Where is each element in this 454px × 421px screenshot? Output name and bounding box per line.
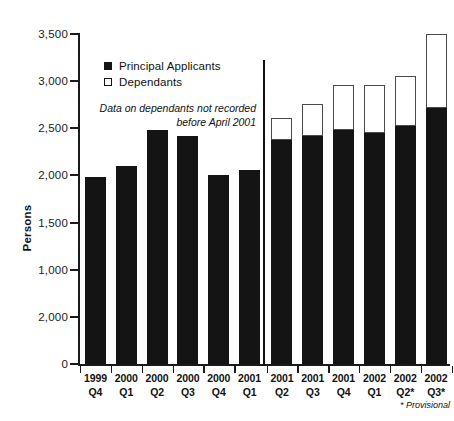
bar [271,118,292,364]
x-axis-label-quarter: Q4 [328,386,359,400]
x-axis-label-year: 2001 [297,372,328,386]
dependants-annotation: Data on dependants not recorded before A… [96,101,256,129]
bar [333,85,354,364]
x-axis-label-quarter: Q2* [390,386,421,400]
x-axis-label: 2000Q3 [173,372,204,399]
bar-segment-principal-applicants [147,130,168,364]
legend-label-dependants: Dependants [119,76,182,88]
bar-segment-dependants [426,34,447,108]
x-tick-mark [452,366,453,373]
bar [85,177,106,364]
x-axis-label-quarter: Q3* [421,386,452,400]
dependants-annotation-line2: before April 2001 [176,116,256,128]
y-tick-mark [70,80,80,82]
x-axis-label: 2001Q2 [267,372,298,399]
legend-item-dependants: Dependants [104,75,221,89]
bar-segment-principal-applicants [85,177,106,364]
dependants-annotation-line1: Data on dependants not recorded [100,102,256,114]
y-tick-label: 1,000 [10,264,68,276]
provisional-footnote: * Provisional [352,400,450,410]
x-axis-label-quarter: Q4 [80,386,111,400]
x-axis-label-year: 2000 [142,372,173,386]
bar [364,85,385,364]
y-tick-mark [70,222,80,224]
x-axis-label-year: 2001 [234,372,265,386]
bar [147,130,168,364]
x-axis-label-year: 2001 [267,372,298,386]
x-axis-label: 1999Q4 [80,372,111,399]
x-axis-label-quarter: Q3 [297,386,328,400]
x-axis-label: 2000Q2 [142,372,173,399]
bar-segment-principal-applicants [395,126,416,364]
bar [302,104,323,364]
x-axis-label-quarter: Q4 [203,386,234,400]
y-tick-label: 2,000 [10,169,68,181]
y-tick-label: 2,500 [10,122,68,134]
bar [177,136,198,364]
bar-segment-principal-applicants [116,166,137,364]
x-axis-label-quarter: Q2 [142,386,173,400]
bar-segment-dependants [364,85,385,133]
legend-swatch-filled-icon [104,62,112,70]
x-axis-label: 2002Q3* [421,372,452,399]
y-tick-mark [70,269,80,271]
bar [208,175,229,364]
x-axis-label: 2000Q4 [203,372,234,399]
x-axis-label-quarter: Q1 [111,386,142,400]
x-axis-label: 2001Q3 [297,372,328,399]
y-tick-label: 3,500 [10,28,68,40]
y-tick-mark [70,174,80,176]
bar-segment-principal-applicants [333,130,354,364]
bar-segment-principal-applicants [271,140,292,364]
x-axis-label-year: 2000 [111,372,142,386]
x-axis-label-quarter: Q3 [173,386,204,400]
bar-segment-principal-applicants [364,133,385,364]
bar-segment-principal-applicants [239,170,260,364]
legend-swatch-hollow-icon [104,78,112,86]
bar-segment-dependants [302,104,323,136]
y-tick-mark [70,127,80,129]
bar [239,170,260,364]
y-tick-label: 2,000 [10,311,68,323]
legend-label-principal-applicants: Principal Applicants [119,60,221,72]
y-tick-mark [70,316,80,318]
x-axis-label-year: 2001 [328,372,359,386]
x-axis-label: 2001Q4 [328,372,359,399]
bar [116,166,137,364]
x-axis-label-quarter: Q2 [267,386,298,400]
y-tick-label: 3,000 [10,75,68,87]
x-axis-label-quarter: Q1 [359,386,390,400]
x-axis-label-quarter: Q1 [234,386,265,400]
x-axis-label-year: 2000 [203,372,234,386]
x-axis-label: 2002Q2* [390,372,421,399]
y-tick-label: 1,500 [10,217,68,229]
y-tick-mark [70,33,80,35]
x-axis-label: 2002Q1 [359,372,390,399]
x-axis-label: 2001Q1 [234,372,265,399]
bar-segment-principal-applicants [426,108,447,364]
bar-segment-dependants [271,118,292,140]
period-divider-line [263,60,265,366]
x-axis-label-year: 2002 [359,372,390,386]
bar-segment-dependants [395,76,416,126]
bar-chart: Persons 3,5003,0002,5002,0001,5001,0002,… [0,0,454,421]
x-axis-label-year: 2002 [390,372,421,386]
x-axis-label-year: 2002 [421,372,452,386]
x-axis-label-year: 2000 [173,372,204,386]
x-axis-label: 2000Q1 [111,372,142,399]
y-tick-label: 0 [10,358,68,370]
y-tick-mark [70,363,80,365]
legend-item-principal-applicants: Principal Applicants [104,59,221,73]
bar-segment-dependants [333,85,354,130]
bar-segment-principal-applicants [177,136,198,364]
bar-segment-principal-applicants [208,175,229,364]
chart-legend: Principal Applicants Dependants [104,59,221,91]
bar-segment-principal-applicants [302,136,323,364]
x-axis-label-year: 1999 [80,372,111,386]
bar [395,76,416,364]
bar [426,34,447,364]
